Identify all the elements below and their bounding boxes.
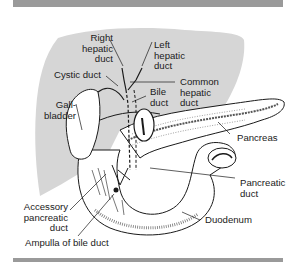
label-line: duct	[240, 189, 285, 200]
label-pancreatic-duct: Pancreatic duct	[240, 178, 285, 199]
portal-vessel-ring	[134, 109, 154, 141]
label-line: Accessory	[18, 202, 68, 213]
label-line: duct	[150, 98, 168, 109]
ampulla-dot	[114, 188, 119, 193]
label-cystic-duct: Cystic duct	[54, 70, 101, 81]
label-duodenum: Duodenum	[205, 215, 252, 226]
label-line: Right	[82, 33, 113, 44]
label-right-hepatic-duct: Right hepatic duct	[82, 33, 113, 65]
label-line: bladder	[44, 111, 76, 122]
label-gallbladder: Gall- bladder	[44, 100, 76, 121]
label-line: duct	[18, 223, 68, 234]
label-left-hepatic-duct: Left hepatic duct	[154, 40, 185, 72]
label-line: duct	[154, 61, 185, 72]
label-accessory-pancreatic-duct: Accessory pancreatic duct	[18, 202, 68, 234]
label-line: Bile	[150, 87, 168, 98]
label-bile-duct: Bile duct	[150, 87, 168, 108]
label-line: duct	[82, 54, 113, 65]
label-line: Left	[154, 40, 185, 51]
label-ampulla-of-bile-duct: Ampulla of bile duct	[25, 238, 109, 249]
label-line: Common	[180, 77, 219, 88]
label-pancreas: Pancreas	[237, 133, 278, 144]
label-line: Pancreatic	[240, 178, 285, 189]
label-line: duct	[180, 98, 219, 109]
label-common-hepatic-duct: Common hepatic duct	[180, 77, 219, 109]
label-line: Gall-	[44, 100, 76, 111]
